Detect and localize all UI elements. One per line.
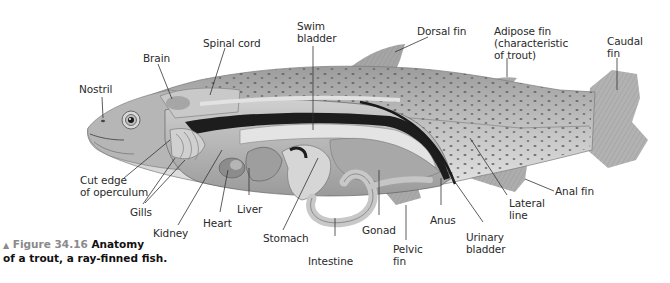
- figure-number: Figure 34.16: [13, 238, 88, 250]
- label-adipose-fin: Adipose fin (characteristic of trout): [494, 25, 568, 61]
- label-dorsal-fin: Dorsal fin: [417, 25, 466, 37]
- label-anus: Anus: [430, 214, 456, 226]
- trout-anatomy-figure: Nostril Brain Spinal cord Swim bladder D…: [0, 0, 670, 283]
- triangle-marker-icon: ▲: [3, 241, 9, 250]
- figure-caption: ▲ Figure 34.16 Anatomy of a trout, a ray…: [3, 238, 167, 265]
- label-stomach: Stomach: [263, 232, 309, 244]
- label-spinal-cord: Spinal cord: [203, 37, 261, 49]
- caption-title-line1: Anatomy: [91, 238, 144, 250]
- label-caudal-fin: Caudal fin: [607, 35, 643, 59]
- label-urinary-bladder: Urinary bladder: [466, 231, 505, 255]
- label-intestine: Intestine: [308, 255, 353, 267]
- label-nostril: Nostril: [79, 83, 112, 95]
- label-gonad: Gonad: [362, 224, 396, 236]
- caption-title-line2: of a trout, a ray-finned fish.: [3, 252, 167, 265]
- label-pelvic-fin: Pelvic fin: [393, 243, 423, 267]
- label-heart: Heart: [203, 217, 232, 229]
- label-lateral-line: Lateral line: [509, 197, 545, 221]
- label-gills: Gills: [130, 206, 152, 218]
- label-brain: Brain: [143, 52, 170, 64]
- label-anal-fin: Anal fin: [555, 185, 594, 197]
- label-liver: Liver: [237, 203, 262, 215]
- label-cut-edge-operculum: Cut edge of operculum: [80, 174, 148, 198]
- label-swim-bladder: Swim bladder: [297, 20, 336, 44]
